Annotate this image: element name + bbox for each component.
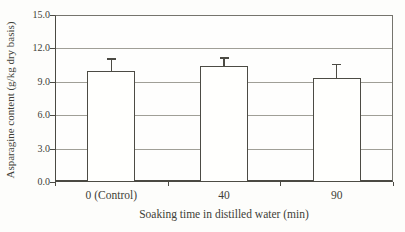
y-axis-tickmark (50, 48, 55, 49)
x-axis-tickmark (168, 182, 169, 186)
x-axis-category-label: 0 (Control) (55, 188, 167, 202)
data-bar (87, 71, 135, 182)
x-axis-tickmark (55, 182, 56, 186)
x-axis-category-label: 90 (281, 188, 393, 202)
bar-chart-figure: Asparagine content (g/kg dry basis) Soak… (0, 0, 405, 232)
data-bar (200, 66, 248, 182)
error-bar-cap (332, 64, 341, 66)
data-bar (313, 78, 361, 182)
x-axis-tickmark (393, 182, 394, 186)
error-bar-line (336, 64, 338, 78)
y-axis-title: Asparagine content (g/kg dry basis) (4, 10, 20, 190)
y-axis-tick-label: 12.0 (18, 42, 50, 54)
gridline (56, 48, 392, 49)
x-axis-category-label: 40 (168, 188, 280, 202)
error-bar-line (111, 58, 113, 70)
error-bar-cap (220, 57, 229, 59)
x-axis-title: Soaking time in distilled water (min) (55, 208, 393, 220)
y-axis-tickmark (50, 115, 55, 116)
y-axis-tick-label: 3.0 (18, 143, 50, 155)
y-axis-tick-label: 15.0 (18, 9, 50, 21)
y-axis-tickmark (50, 15, 55, 16)
y-axis-tick-label: 9.0 (18, 76, 50, 88)
x-axis-tickmark (280, 182, 281, 186)
error-bar-cap (107, 58, 116, 60)
y-axis-tickmark (50, 82, 55, 83)
y-axis-tickmark (50, 149, 55, 150)
y-axis-tick-label: 0.0 (18, 176, 50, 188)
y-axis-tick-label: 6.0 (18, 109, 50, 121)
